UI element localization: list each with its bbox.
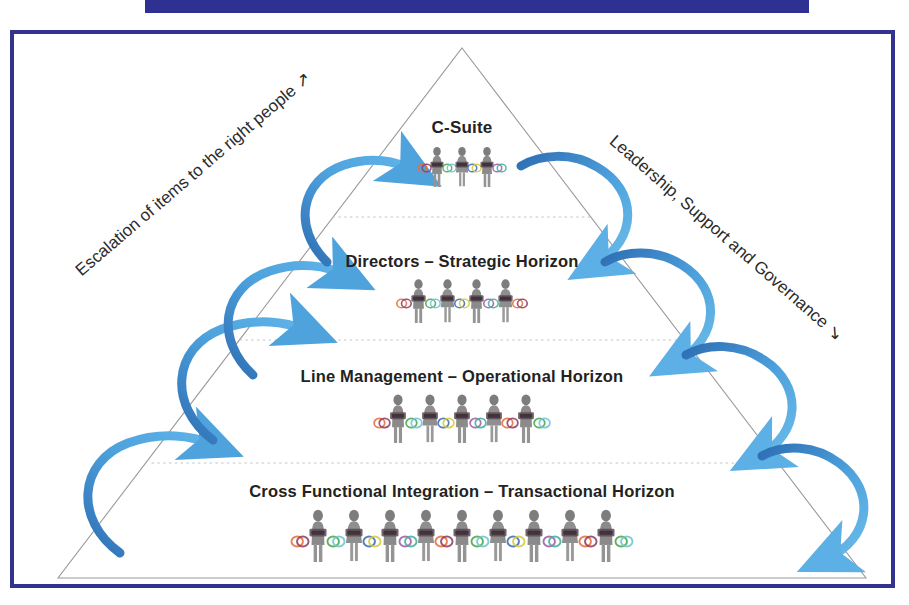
top-decorative-bar [145, 0, 809, 13]
diagram-canvas: C-Suite Directors – Strategic Horizon Li… [0, 0, 909, 605]
tier-label-cross-functional: Cross Functional Integration – Transacti… [249, 482, 675, 501]
chain-link-icon [533, 417, 552, 429]
chain-link-icon [492, 163, 508, 173]
people-row-directors [398, 277, 526, 323]
tier-label-line-management: Line Management – Operational Horizon [301, 367, 624, 386]
tier-label-directors: Directors – Strategic Horizon [345, 252, 578, 271]
people-row-cross-functional [293, 507, 632, 562]
people-row-line-management [376, 392, 549, 443]
tier-label-c-suite: C-Suite [432, 118, 493, 138]
chain-link-icon [511, 298, 529, 309]
chain-link-icon [614, 535, 635, 548]
people-row-c-suite [420, 145, 505, 187]
